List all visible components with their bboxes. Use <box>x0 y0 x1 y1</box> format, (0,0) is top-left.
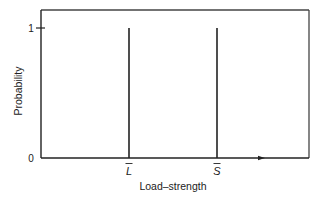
cat-label-S: S <box>213 165 221 177</box>
x-axis-arrow-icon <box>258 156 265 160</box>
category-label-L: L <box>126 164 133 178</box>
x-axis-label: Load–strength <box>139 180 206 192</box>
cat-label-L: L <box>126 165 132 177</box>
plot-frame <box>41 10 309 158</box>
y-axis-label: Probability <box>12 66 24 116</box>
y-tick-label-1: 1 <box>28 23 34 34</box>
category-label-S: S <box>213 164 221 178</box>
chart: 1 0 L S Load–strength Probability <box>0 0 321 202</box>
y-tick-label-0: 0 <box>28 153 34 164</box>
